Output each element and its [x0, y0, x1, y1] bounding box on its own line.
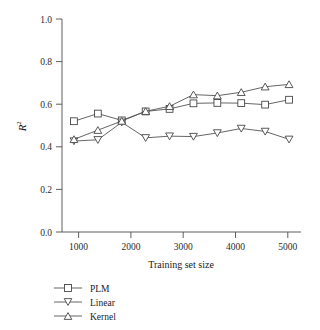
y-tick-label-1.0: 1.0 — [40, 15, 52, 25]
data-series-layer — [70, 81, 293, 145]
x-axis-title: Training set size — [148, 259, 214, 270]
data-point-plm-1000 — [94, 110, 101, 117]
y-tick-label-0.4: 0.4 — [40, 142, 52, 152]
x-axis-ticks: 1000 2000 3000 4000 5000 — [69, 232, 297, 252]
legend-label-kernel: Kernel — [90, 312, 116, 322]
legend-item-plm[interactable]: PLM — [54, 284, 110, 294]
data-point-plm-3500 — [214, 100, 221, 107]
chart-figure: 1.0 0.8 0.6 0.4 0.2 0.0 1000 2000 3000 4… — [0, 0, 320, 330]
y-axis-title: R 2 — [15, 121, 28, 133]
data-point-plm-4000 — [238, 100, 245, 107]
y-tick-label-0.0: 0.0 — [40, 228, 52, 238]
x-tick-label-5000: 5000 — [278, 242, 297, 252]
r2-vs-training-size-line-chart: 1.0 0.8 0.6 0.4 0.2 0.0 1000 2000 3000 4… — [0, 0, 320, 330]
x-tick-label-4000: 4000 — [226, 242, 245, 252]
data-point-plm-500 — [71, 118, 78, 125]
x-tick-label-2000: 2000 — [121, 242, 140, 252]
legend-label-linear: Linear — [90, 298, 116, 308]
data-point-plm-3000 — [190, 100, 197, 107]
series-line-kernel — [74, 84, 289, 139]
series-line-linear — [74, 122, 289, 141]
axes — [62, 19, 301, 232]
x-tick-label-1000: 1000 — [69, 242, 88, 252]
y-tick-label-0.6: 0.6 — [40, 100, 52, 110]
y-tick-label-0.2: 0.2 — [40, 185, 52, 195]
legend-label-plm: PLM — [90, 284, 110, 294]
series-line-plm — [74, 100, 289, 122]
x-tick-label-3000: 3000 — [174, 242, 193, 252]
series-linear — [70, 119, 293, 145]
data-point-plm-5000 — [286, 96, 293, 103]
y-tick-label-0.8: 0.8 — [40, 57, 52, 67]
data-point-plm-4500 — [262, 101, 269, 108]
legend: PLM Linear Kernel — [54, 284, 116, 322]
y-axis-title-exponent: 2 — [15, 121, 23, 125]
legend-item-linear[interactable]: Linear — [54, 298, 116, 308]
data-point-kernel-5000 — [285, 81, 293, 88]
series-kernel — [70, 81, 293, 143]
y-axis-ticks: 1.0 0.8 0.6 0.4 0.2 0.0 — [40, 15, 62, 238]
data-point-linear-5000 — [285, 136, 293, 143]
data-point-kernel-1000 — [94, 127, 102, 134]
legend-marker-square — [65, 285, 72, 292]
legend-item-kernel[interactable]: Kernel — [54, 312, 116, 322]
data-point-linear-4500 — [261, 128, 269, 135]
